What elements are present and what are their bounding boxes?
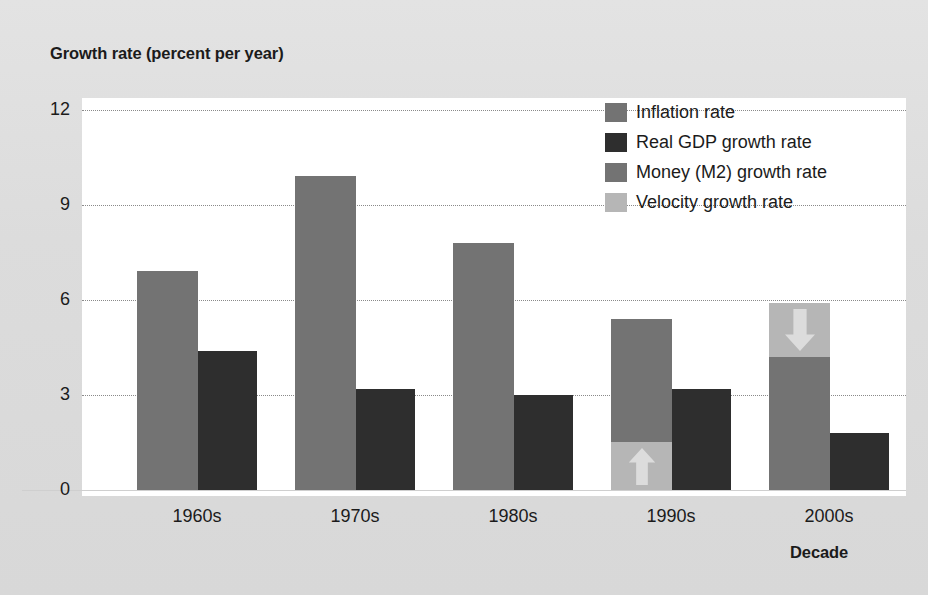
y-tick-0: 0 <box>24 479 70 500</box>
legend-item-inflation: Inflation rate <box>605 98 895 126</box>
bar-segment-velocity <box>769 303 830 357</box>
bar-segment-gdp <box>198 351 257 490</box>
x-tick-1970s: 1970s <box>283 506 427 527</box>
bar-segment-money <box>611 319 672 443</box>
legend-swatch-money <box>605 163 627 182</box>
legend-label-inflation: Inflation rate <box>636 103 735 121</box>
legend: Inflation rateReal GDP growth rateMoney … <box>605 98 895 218</box>
arrow-up-icon <box>623 448 661 485</box>
bar-segment-inflation <box>137 271 198 490</box>
x-axis-title: Decade <box>790 543 848 562</box>
legend-swatch-velocity <box>605 193 627 212</box>
x-tick-1980s: 1980s <box>441 506 585 527</box>
figure: Growth rate (percent per year) 036912 19… <box>22 10 906 580</box>
gridline-0 <box>22 490 906 491</box>
x-tick-2000s: 2000s <box>757 506 901 527</box>
legend-item-money: Money (M2) growth rate <box>605 158 895 186</box>
page-background: Growth rate (percent per year) 036912 19… <box>0 0 928 595</box>
y-tick-6: 6 <box>24 289 70 310</box>
arrow-down-icon <box>781 309 819 351</box>
bar-segment-velocity <box>611 442 672 490</box>
bar-segment-inflation <box>453 243 514 490</box>
y-tick-3: 3 <box>24 384 70 405</box>
bar-segment-gdp <box>672 389 731 490</box>
legend-label-money: Money (M2) growth rate <box>636 163 827 181</box>
bar-segment-inflation <box>295 176 356 490</box>
legend-label-velocity: Velocity growth rate <box>636 193 793 211</box>
legend-item-velocity: Velocity growth rate <box>605 188 895 216</box>
bar-segment-money <box>769 357 830 490</box>
bar-segment-gdp <box>514 395 573 490</box>
y-tick-12: 12 <box>24 99 70 120</box>
x-tick-1960s: 1960s <box>125 506 269 527</box>
legend-swatch-gdp <box>605 133 627 152</box>
x-tick-1990s: 1990s <box>599 506 743 527</box>
y-axis-title: Growth rate (percent per year) <box>50 44 284 63</box>
legend-item-gdp: Real GDP growth rate <box>605 128 895 156</box>
y-tick-9: 9 <box>24 194 70 215</box>
legend-label-gdp: Real GDP growth rate <box>636 133 812 151</box>
bar-segment-gdp <box>830 433 889 490</box>
legend-swatch-inflation <box>605 103 627 122</box>
bar-segment-gdp <box>356 389 415 490</box>
